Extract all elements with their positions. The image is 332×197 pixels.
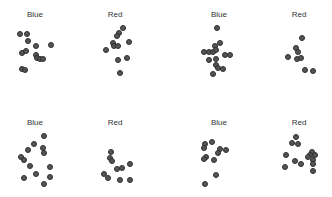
- data-point: [310, 68, 316, 74]
- data-point: [213, 172, 219, 178]
- data-point: [202, 181, 208, 187]
- data-point: [211, 157, 217, 163]
- data-point: [210, 71, 216, 77]
- data-point: [24, 31, 30, 37]
- data-point: [109, 158, 115, 164]
- data-point: [223, 147, 229, 153]
- data-point: [310, 168, 316, 174]
- data-point: [41, 181, 47, 187]
- data-point: [298, 161, 304, 167]
- panel-title: Blue: [211, 10, 227, 19]
- data-point: [310, 161, 316, 167]
- data-point: [201, 145, 207, 151]
- data-point: [25, 38, 31, 44]
- data-point: [206, 57, 212, 63]
- data-point: [214, 25, 220, 31]
- data-point: [302, 67, 308, 73]
- panel-title: Red: [292, 10, 307, 19]
- data-point: [127, 177, 133, 183]
- data-point: [115, 43, 121, 49]
- data-point: [282, 164, 288, 170]
- data-point: [215, 150, 221, 156]
- data-point: [25, 147, 31, 153]
- data-point: [201, 156, 207, 162]
- data-point: [47, 174, 53, 180]
- data-point: [124, 55, 130, 61]
- data-point: [27, 163, 33, 169]
- panel-title: Blue: [27, 118, 43, 127]
- data-point: [209, 139, 215, 145]
- panel-title: Blue: [211, 118, 227, 127]
- data-point: [283, 152, 289, 158]
- data-point: [299, 35, 305, 41]
- data-point: [293, 134, 299, 140]
- data-point: [48, 42, 54, 48]
- data-point: [295, 141, 301, 147]
- data-point: [41, 133, 47, 139]
- data-point: [33, 43, 39, 49]
- data-point: [117, 70, 123, 76]
- panel-title: Blue: [27, 10, 43, 19]
- data-point: [23, 48, 29, 54]
- data-point: [213, 47, 219, 53]
- panel-title: Red: [108, 118, 123, 127]
- data-point: [117, 177, 123, 183]
- data-point: [41, 150, 47, 156]
- data-point: [22, 67, 28, 73]
- panel-title: Red: [108, 10, 123, 19]
- data-point: [126, 39, 132, 45]
- panel-title: Red: [292, 118, 307, 127]
- data-point: [21, 175, 27, 181]
- data-point: [114, 33, 120, 39]
- data-point: [285, 54, 291, 60]
- data-point: [220, 66, 226, 72]
- data-point: [33, 171, 39, 177]
- data-point: [115, 57, 121, 63]
- data-point: [17, 31, 23, 37]
- data-point: [298, 55, 304, 61]
- data-point: [40, 56, 46, 62]
- data-point: [227, 52, 233, 58]
- data-point: [31, 141, 37, 147]
- data-point: [47, 164, 53, 170]
- data-point: [103, 47, 109, 53]
- small-multiples-scatter-figure: BlueRedBlueRedBlueRedBlueRed: [0, 0, 332, 197]
- data-point: [127, 161, 133, 167]
- data-point: [105, 175, 111, 181]
- data-point: [119, 165, 125, 171]
- data-point: [21, 157, 27, 163]
